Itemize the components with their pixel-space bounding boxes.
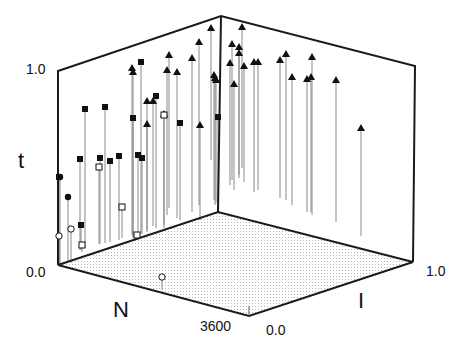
triangle-marker <box>188 54 196 61</box>
y-tick-front: 0.0 <box>266 322 285 338</box>
filled-square-marker <box>107 158 113 164</box>
z-tick-bottom: 0.0 <box>26 264 45 280</box>
triangle-marker <box>143 120 151 127</box>
open-square-marker <box>134 232 140 238</box>
triangle-marker <box>163 66 171 73</box>
x-tick-3600: 3600 <box>200 318 231 334</box>
3d-stem-plot <box>0 0 466 350</box>
filled-circle-marker <box>57 174 63 180</box>
triangle-marker <box>307 73 315 80</box>
y-axis-label: I <box>358 288 364 314</box>
filled-square-marker <box>153 93 159 99</box>
triangle-marker <box>332 76 340 83</box>
open-square-marker <box>119 204 125 210</box>
filled-square-marker <box>138 59 144 65</box>
open-square-marker <box>79 242 85 248</box>
triangle-marker <box>228 40 236 47</box>
triangle-marker <box>357 124 365 131</box>
triangle-marker <box>308 53 316 60</box>
filled-square-marker <box>215 114 221 120</box>
z-tick-top: 1.0 <box>26 61 45 77</box>
triangle-marker <box>240 62 248 69</box>
triangle-marker <box>196 121 204 128</box>
open-square-marker <box>161 112 167 118</box>
triangle-marker <box>230 80 238 87</box>
open-circle-marker <box>68 226 74 232</box>
triangle-marker <box>165 51 173 58</box>
filled-square-marker <box>77 156 83 162</box>
triangle-marker <box>195 38 203 45</box>
filled-square-marker <box>102 104 108 110</box>
triangle-marker <box>276 56 284 63</box>
y-tick-back: 1.0 <box>426 263 445 279</box>
filled-square-marker <box>97 155 103 161</box>
filled-square-marker <box>82 106 88 112</box>
triangle-marker <box>207 24 215 31</box>
triangle-marker <box>173 68 181 75</box>
filled-circle-marker <box>65 194 71 200</box>
filled-square-marker <box>116 153 122 159</box>
x-axis-label: N <box>113 297 129 323</box>
triangle-marker <box>226 59 234 66</box>
filled-square-marker <box>177 120 183 126</box>
open-circle-marker <box>159 274 165 280</box>
triangle-marker <box>288 73 296 80</box>
z-axis-label: t <box>18 148 24 174</box>
open-square-marker <box>96 164 102 170</box>
open-circle-marker <box>56 233 62 239</box>
chart-root: 1.0 t 0.0 N 3600 0.0 I 1.0 <box>0 0 466 350</box>
filled-square-marker <box>78 222 84 228</box>
triangle-marker <box>238 23 246 30</box>
triangle-marker <box>282 50 290 57</box>
filled-square-marker <box>130 115 136 121</box>
filled-square-marker <box>139 155 145 161</box>
